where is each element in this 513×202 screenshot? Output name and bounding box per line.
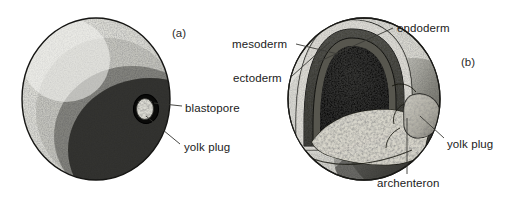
gastrulation-figure: (a) blastopore yolk plug mesoderm ectode…: [0, 0, 513, 202]
label-ectoderm: ectoderm: [233, 72, 282, 84]
label-archenteron: archenteron: [377, 177, 439, 189]
panel-b-embryo: [280, 18, 482, 202]
label-yolk-plug-a: yolk plug: [184, 141, 230, 153]
label-yolk-plug-b: yolk plug: [447, 138, 493, 150]
label-mesoderm: mesoderm: [232, 38, 287, 50]
blastopore-structure: [134, 95, 159, 124]
label-blastopore: blastopore: [185, 102, 240, 114]
label-endoderm: endoderm: [397, 22, 450, 34]
panel-a-letter: (a): [172, 27, 186, 39]
panel-b-letter: (b): [461, 56, 475, 68]
